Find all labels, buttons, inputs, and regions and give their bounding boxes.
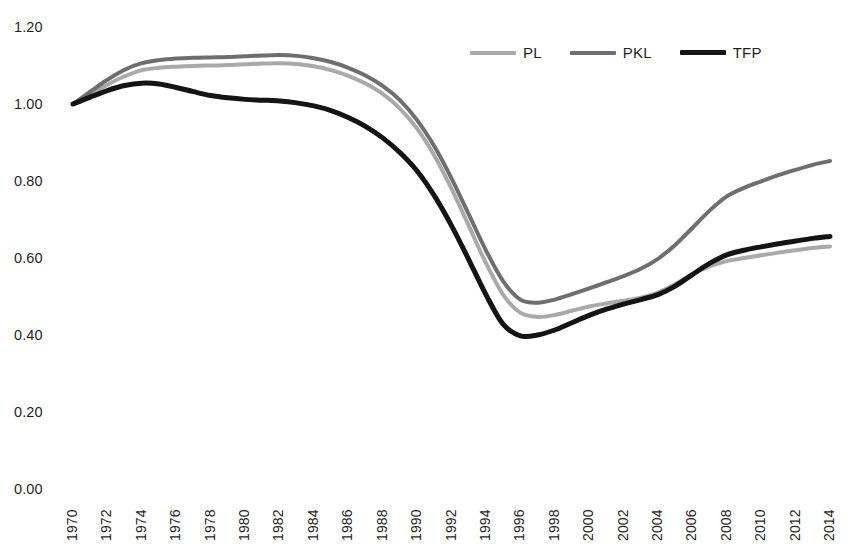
plot-area [0,0,855,549]
series-line-tfp [73,83,830,336]
series-line-pl [73,63,830,317]
line-chart: 0.000.200.400.600.801.001.20 19701972197… [0,0,855,549]
